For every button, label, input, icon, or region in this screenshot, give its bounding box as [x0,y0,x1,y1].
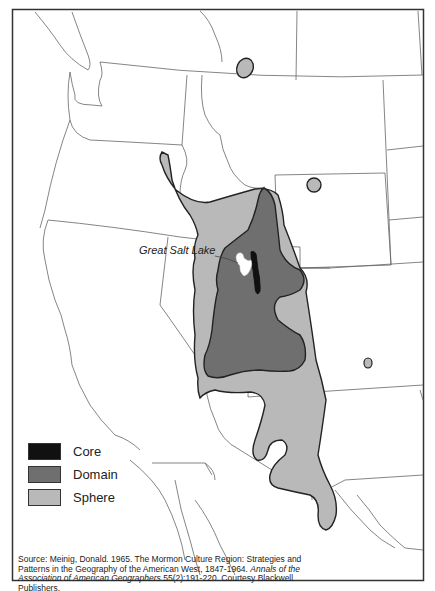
legend-item-core: Core [28,440,118,463]
legend: Core Domain Sphere [28,440,118,509]
legend-swatch-sphere [28,489,61,506]
legend-item-sphere: Sphere [28,486,118,509]
legend-item-domain: Domain [28,463,118,486]
legend-label-domain: Domain [73,467,118,482]
legend-label-core: Core [73,444,101,459]
legend-label-sphere: Sphere [73,490,115,505]
legend-swatch-core [28,443,61,460]
legend-swatch-domain [28,466,61,483]
source-citation: Source: Meinig, Donald. 1965. The Mormon… [18,555,328,591]
great-salt-lake-label: Great Salt Lake [139,244,215,256]
